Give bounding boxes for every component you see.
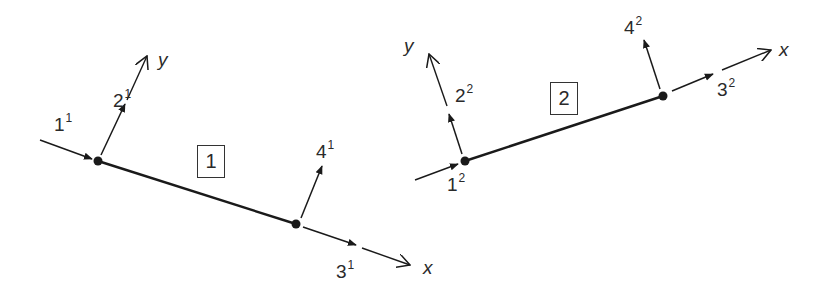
element-2-id-box: 2 [550,82,578,115]
element-2 [415,40,771,180]
element-1-id: 1 [205,150,216,173]
element-1-x-axis [362,248,410,265]
dof-3-2-label: 32 [717,80,735,99]
dof-2-1-label: 21 [113,91,131,110]
element-1-y-label: y [158,50,168,69]
element-1-id-box: 1 [197,145,225,178]
element-1 [40,56,410,265]
dof-2-1-arrow [101,104,125,155]
element-2-x-axis [722,50,771,70]
dof-3-1-label: 31 [336,262,354,281]
dof-1-1-label: 11 [54,115,72,134]
element-1-node-1 [94,157,103,166]
dof-4-1-arrow [301,166,322,218]
dof-3-1-arrow [303,227,356,245]
element-2-x-label: x [779,40,789,59]
element-2-node-1 [461,157,470,166]
dof-3-2-arrow [672,74,713,91]
element-2-y-axis [429,54,447,106]
dof-4-2-arrow [644,40,660,89]
dof-1-2-label: 12 [447,175,465,194]
element-1-node-2 [292,220,301,229]
element-2-node-2 [659,92,668,101]
element-2-y-label: y [404,36,414,55]
dof-2-2-arrow [449,114,462,154]
dof-1-1-arrow [40,140,92,159]
dof-4-2-label: 42 [624,18,642,37]
element-1-x-label: x [423,258,433,277]
element-2-id: 2 [558,87,569,110]
dof-2-2-label: 22 [455,86,473,105]
dof-4-1-label: 41 [316,142,334,161]
